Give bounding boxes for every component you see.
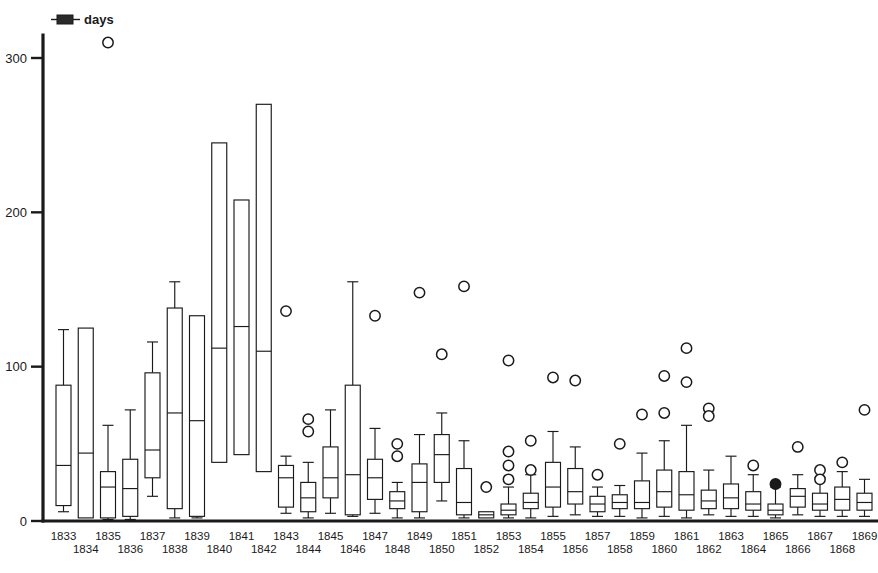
- x-tick-labels: 1833183418351836183718381839184018411842…: [51, 530, 878, 555]
- x-tick-label: 1846: [340, 543, 366, 555]
- box-plot-item: [256, 104, 271, 471]
- box-plot-item: [746, 460, 761, 516]
- box-iqr-rect: [523, 493, 538, 508]
- outlier-point: [592, 470, 602, 480]
- outlier-point: [103, 37, 113, 47]
- box-plot-item: [701, 403, 716, 515]
- box-iqr-rect: [78, 328, 93, 518]
- box-iqr-rect: [323, 447, 338, 498]
- outlier-point: [526, 436, 536, 446]
- box-iqr-rect: [123, 459, 138, 516]
- boxplot-canvas: days 0100200300 183318341835183618371838…: [0, 0, 878, 573]
- box-iqr-rect: [345, 385, 360, 515]
- x-tick-label: 1858: [607, 543, 633, 555]
- x-tick-label: 1836: [117, 543, 143, 555]
- box-plot-item: [768, 479, 783, 518]
- outlier-point: [503, 355, 513, 365]
- x-tick-label: 1860: [651, 543, 677, 555]
- box-plot-item: [301, 414, 316, 518]
- box-plot-item: [345, 282, 360, 517]
- box-iqr-rect: [145, 373, 160, 478]
- x-tick-label: 1859: [629, 530, 655, 542]
- y-tick-label: 100: [5, 359, 27, 374]
- box-iqr-rect: [612, 495, 627, 509]
- x-tick-label: 1842: [251, 543, 277, 555]
- legend-label-days: days: [84, 12, 114, 27]
- box-iqr-rect: [279, 465, 294, 507]
- outlier-point: [370, 311, 380, 321]
- box-iqr-rect: [746, 492, 761, 511]
- outlier-point: [637, 409, 647, 419]
- box-iqr-rect: [167, 308, 182, 509]
- x-tick-label: 1853: [496, 530, 522, 542]
- box-plot-item: [568, 375, 583, 514]
- box-iqr-rect: [368, 459, 383, 499]
- x-tick-label: 1847: [362, 530, 388, 542]
- x-tick-label: 1862: [696, 543, 722, 555]
- outlier-point: [281, 306, 291, 316]
- outlier-point: [570, 375, 580, 385]
- box-plot-item: [835, 457, 850, 516]
- box-series: [56, 37, 872, 519]
- box-plot-item: [457, 281, 472, 518]
- box-plot-item: [434, 349, 449, 501]
- box-plot-item: [501, 355, 516, 518]
- outlier-point: [615, 439, 625, 449]
- box-iqr-rect: [457, 469, 472, 515]
- box-iqr-rect: [190, 316, 205, 517]
- x-tick-label: 1856: [562, 543, 588, 555]
- box-plot-item: [190, 316, 205, 518]
- outlier-point: [704, 411, 714, 421]
- box-plot-item: [724, 456, 739, 516]
- outlier-point: [681, 377, 691, 387]
- box-iqr-rect: [724, 484, 739, 509]
- outlier-point: [392, 439, 402, 449]
- box-iqr-rect: [234, 200, 249, 455]
- box-plot-item: [234, 200, 249, 455]
- box-iqr-rect: [390, 492, 405, 509]
- outlier-point: [303, 414, 313, 424]
- x-tick-label: 1852: [473, 543, 499, 555]
- box-iqr-rect: [412, 464, 427, 512]
- box-plot-item: [279, 306, 294, 513]
- boxplot-glyph-icon: [51, 15, 80, 24]
- box-iqr-rect: [657, 470, 672, 507]
- outlier-point: [659, 371, 669, 381]
- outlier-point: [748, 460, 758, 470]
- x-tick-label: 1838: [162, 543, 188, 555]
- box-plot-item: [590, 470, 605, 517]
- box-plot-item: [78, 328, 93, 518]
- x-tick-label: 1837: [140, 530, 166, 542]
- box-iqr-rect: [568, 469, 583, 504]
- box-iqr-rect: [835, 487, 850, 510]
- x-tick-label: 1855: [540, 530, 566, 542]
- box-plot-item: [123, 410, 138, 520]
- x-tick-label: 1868: [829, 543, 855, 555]
- outlier-point: [548, 372, 558, 382]
- outlier-point: [503, 446, 513, 456]
- x-tick-label: 1867: [807, 530, 833, 542]
- box-plot-item: [412, 287, 427, 518]
- box-plot-item: [167, 282, 182, 518]
- box-plot-item: [101, 37, 116, 519]
- box-plot-item: [612, 439, 627, 517]
- outlier-point: [815, 474, 825, 484]
- x-tick-label: 1863: [718, 530, 744, 542]
- boxplot-chart: days 0100200300 183318341835183618371838…: [0, 0, 878, 573]
- x-tick-label: 1841: [229, 530, 255, 542]
- x-tick-label: 1844: [295, 543, 321, 555]
- box-iqr-rect: [256, 104, 271, 471]
- x-tick-label: 1843: [273, 530, 299, 542]
- box-iqr-rect: [101, 472, 116, 518]
- x-tick-label: 1848: [384, 543, 410, 555]
- outlier-point: [837, 457, 847, 467]
- box-plot-item: [635, 409, 650, 518]
- box-iqr-rect: [701, 490, 716, 509]
- x-tick-label: 1850: [429, 543, 455, 555]
- box-plot-item: [145, 342, 160, 496]
- outlier-point: [681, 343, 691, 353]
- box-plot-item: [323, 410, 338, 513]
- x-tick-label: 1833: [51, 530, 77, 542]
- box-iqr-rect: [790, 489, 805, 508]
- box-iqr-rect: [546, 462, 561, 507]
